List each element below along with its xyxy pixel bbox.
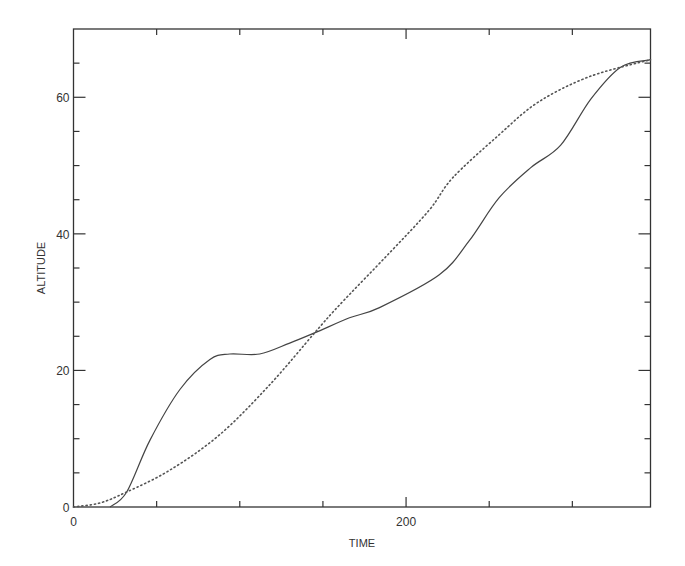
x-tick-label: 0: [70, 515, 77, 529]
y-axis-title: ALTITUDE: [35, 242, 47, 294]
altitude-time-chart: 02000204060 TIME ALTITUDE: [0, 0, 685, 566]
tick-labels: 02000204060: [56, 91, 416, 529]
axis-ticks: [74, 29, 651, 507]
y-tick-label: 40: [56, 228, 70, 242]
y-tick-label: 0: [63, 501, 70, 515]
series-solid-line: [110, 60, 650, 507]
y-tick-label: 20: [56, 364, 70, 378]
series-dotted-line: [74, 60, 651, 507]
x-tick-label: 200: [396, 515, 416, 529]
y-tick-label: 60: [56, 91, 70, 105]
x-axis-title: TIME: [349, 537, 375, 549]
plot-frame: [74, 29, 651, 507]
